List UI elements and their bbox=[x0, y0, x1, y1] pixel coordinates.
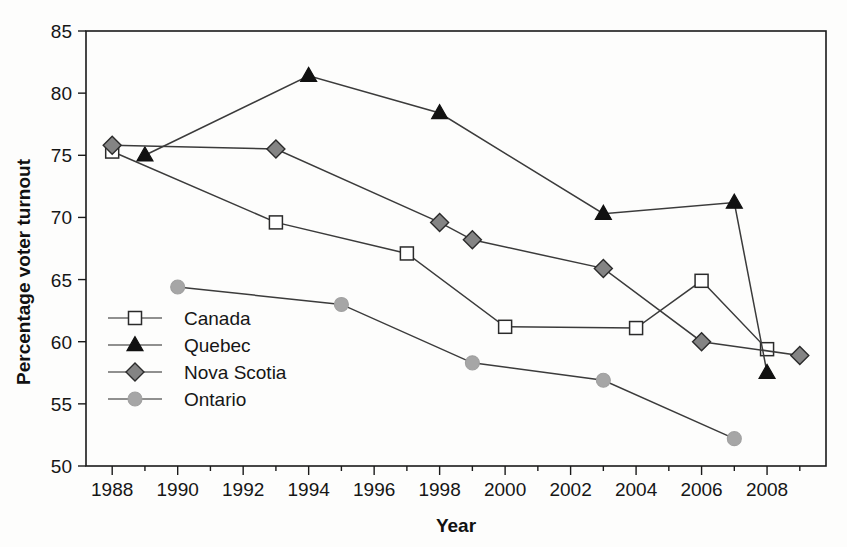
y-tick-label: 70 bbox=[51, 207, 72, 228]
data-point bbox=[301, 67, 317, 81]
data-point bbox=[630, 322, 643, 335]
data-point bbox=[759, 364, 775, 378]
data-point bbox=[499, 320, 512, 333]
legend-label: Canada bbox=[184, 308, 251, 329]
legend-label: Quebec bbox=[184, 335, 251, 356]
data-point bbox=[693, 333, 711, 351]
x-tick-label: 1998 bbox=[418, 479, 460, 500]
y-tick-label: 55 bbox=[51, 394, 72, 415]
legend-item-quebec: Quebec bbox=[108, 335, 251, 356]
y-tick-label: 85 bbox=[51, 21, 72, 42]
legend-item-ontario: Ontario bbox=[108, 389, 246, 410]
data-point bbox=[267, 140, 285, 158]
legend-item-nova-scotia: Nova Scotia bbox=[108, 362, 287, 383]
x-tick-label: 2002 bbox=[549, 479, 591, 500]
data-point bbox=[465, 356, 479, 370]
data-point bbox=[695, 274, 708, 287]
x-tick-label: 1996 bbox=[353, 479, 395, 500]
data-point bbox=[400, 247, 413, 260]
chart-legend: CanadaQuebecNova ScotiaOntario bbox=[108, 308, 287, 410]
y-tick-label: 50 bbox=[51, 456, 72, 477]
legend-item-canada: Canada bbox=[108, 308, 251, 329]
series-nova-scotia bbox=[103, 136, 809, 364]
x-tick-label: 1992 bbox=[222, 479, 264, 500]
data-point bbox=[269, 216, 282, 229]
x-tick-label: 2004 bbox=[615, 479, 658, 500]
y-axis-ticks: 5055606570758085 bbox=[51, 21, 86, 477]
legend-label: Ontario bbox=[184, 389, 246, 410]
x-tick-label: 2008 bbox=[746, 479, 788, 500]
legend-marker bbox=[128, 392, 142, 406]
data-point bbox=[595, 205, 611, 219]
data-point bbox=[463, 231, 481, 249]
data-point bbox=[431, 213, 449, 231]
chart-page: 5055606570758085 19881990199219941996199… bbox=[0, 0, 847, 547]
x-axis-ticks: 1988199019921994199619982000200220042006… bbox=[91, 466, 800, 500]
x-tick-label: 2006 bbox=[680, 479, 722, 500]
data-point bbox=[594, 259, 612, 277]
legend-label: Nova Scotia bbox=[184, 362, 287, 383]
x-tick-label: 1988 bbox=[91, 479, 133, 500]
x-tick-label: 1994 bbox=[288, 479, 331, 500]
data-point bbox=[596, 373, 610, 387]
y-tick-label: 80 bbox=[51, 83, 72, 104]
data-point bbox=[137, 147, 153, 161]
data-point bbox=[171, 280, 185, 294]
x-tick-label: 2000 bbox=[484, 479, 526, 500]
data-point bbox=[791, 346, 809, 364]
voter-turnout-line-chart: 5055606570758085 19881990199219941996199… bbox=[0, 0, 847, 547]
y-tick-label: 60 bbox=[51, 332, 72, 353]
x-tick-label: 1990 bbox=[157, 479, 199, 500]
y-tick-label: 65 bbox=[51, 270, 72, 291]
x-axis-title: Year bbox=[436, 515, 477, 536]
series-quebec bbox=[137, 67, 775, 378]
legend-marker bbox=[127, 337, 143, 351]
data-point bbox=[726, 194, 742, 208]
legend-marker bbox=[126, 363, 144, 381]
y-tick-label: 75 bbox=[51, 145, 72, 166]
y-axis-title: Percentage voter turnout bbox=[13, 158, 34, 385]
data-point bbox=[334, 297, 348, 311]
data-point bbox=[727, 432, 741, 446]
legend-marker bbox=[129, 312, 142, 325]
